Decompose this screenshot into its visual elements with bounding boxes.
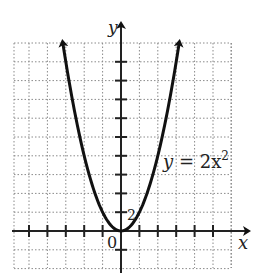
- y-tick-label: 2: [127, 207, 136, 223]
- equation-exponent: 2: [221, 149, 229, 163]
- y-axis-label: y: [107, 17, 118, 37]
- equation-body: = 2x: [173, 151, 221, 172]
- x-axis-label: x: [238, 232, 248, 253]
- origin-label: 0: [107, 233, 117, 252]
- parabola-graph: y x 0 2 y = 2x2: [0, 0, 261, 280]
- equation-label: y = 2x2: [162, 149, 229, 172]
